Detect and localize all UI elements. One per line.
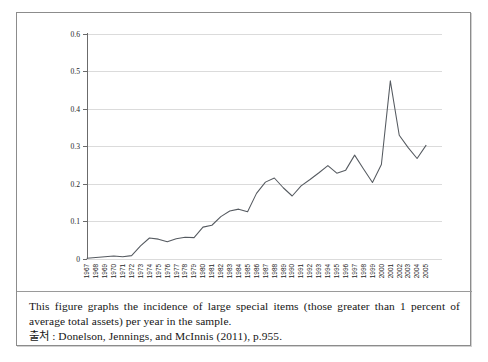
y-axis-tick-label: 0.1 [71,217,81,226]
x-axis-tick-label: 1979 [190,264,197,279]
x-axis-tick-label: 1989 [280,264,287,279]
figure-caption-body: This figure graphs the incidence of larg… [29,299,460,329]
chart-region: 00.10.20.30.40.50.6196719681969197019711… [17,13,472,291]
x-axis-tick-label: 1981 [208,264,215,279]
y-axis-tick-label: 0.4 [71,105,81,114]
x-axis-tick-label: 1992 [306,264,313,279]
x-axis-tick-label: 1998 [360,264,367,279]
x-axis-tick-label: 1987 [262,264,269,279]
x-axis-tick-label: 1990 [288,264,295,279]
x-axis-tick-label: 2001 [387,264,394,279]
x-axis-tick-label: 1972 [128,264,135,279]
x-axis-tick-label: 1994 [324,264,331,279]
line-chart: 00.10.20.30.40.50.6196719681969197019711… [17,13,472,291]
x-axis-tick-label: 1985 [244,264,251,279]
x-axis-tick-label: 1969 [101,264,108,279]
x-axis-tick-label: 1997 [351,264,358,279]
y-axis-tick-label: 0.6 [71,30,81,39]
x-axis-tick-label: 2005 [422,264,429,279]
x-axis-tick-label: 1983 [226,264,233,279]
caption-region: This figure graphs the incidence of larg… [17,292,472,346]
x-axis-tick-label: 2004 [413,264,420,279]
y-axis-tick-label: 0.3 [71,142,81,151]
x-axis-tick-label: 1978 [181,264,188,279]
data-series-line [87,81,426,258]
x-axis-tick-label: 1974 [146,264,153,279]
figure-frame: 00.10.20.30.40.50.6196719681969197019711… [16,12,471,346]
y-axis-tick-label: 0 [76,255,80,264]
x-axis-tick-label: 2000 [378,264,385,279]
x-axis-tick-label: 1982 [217,264,224,279]
x-axis-tick-label: 1996 [342,264,349,279]
x-axis-tick-label: 1976 [164,264,171,279]
y-axis-tick-label: 0.5 [71,67,81,76]
x-axis-tick-label: 1984 [235,264,242,279]
figure-caption-source: 출처 : Donelson, Jennings, and McInnis (20… [29,329,460,344]
x-axis-tick-label: 1986 [253,264,260,279]
x-axis-tick-label: 1975 [155,264,162,279]
x-axis-tick-label: 1980 [199,264,206,279]
x-axis-tick-label: 1995 [333,264,340,279]
x-axis-tick-label: 1971 [119,264,126,279]
x-axis-tick-label: 1970 [110,264,117,279]
x-axis-tick-label: 1968 [92,264,99,279]
y-axis-tick-label: 0.2 [71,180,81,189]
x-axis-tick-label: 1967 [83,264,90,279]
x-axis-tick-label: 1988 [271,264,278,279]
x-axis-tick-label: 2002 [396,264,403,279]
x-axis-tick-label: 1999 [369,264,376,279]
x-axis-tick-label: 1977 [173,264,180,279]
x-axis-tick-label: 1991 [297,264,304,279]
x-axis-tick-label: 2003 [404,264,411,279]
x-axis-tick-label: 1993 [315,264,322,279]
x-axis-tick-label: 1973 [137,264,144,279]
